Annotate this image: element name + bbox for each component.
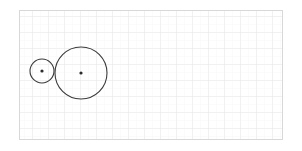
grid-fill bbox=[19, 10, 283, 140]
large-circle-center-dot bbox=[79, 71, 82, 74]
grid-layer bbox=[19, 10, 283, 140]
small-circle-center-dot bbox=[40, 69, 43, 72]
figure-canvas bbox=[0, 0, 302, 151]
geometry-diagram bbox=[0, 0, 302, 151]
